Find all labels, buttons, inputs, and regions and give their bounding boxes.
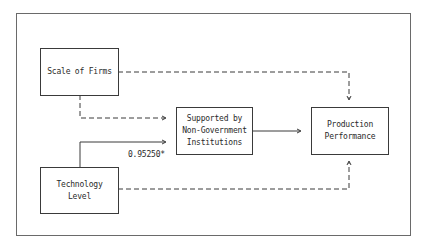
edge-tech-to-production: [118, 162, 349, 189]
edge-scale-to-support: [80, 95, 165, 118]
node-technology-level: Technology Level: [40, 167, 119, 214]
edge-label-coefficient: 0.95250*: [128, 150, 165, 160]
edge-scale-to-production: [118, 72, 349, 99]
node-supported-by-ngo: Supported by Non-Government Institutions: [176, 107, 253, 155]
node-scale-of-firms: Scale of Firms: [40, 48, 119, 96]
node-production-performance: Production Performance: [311, 107, 389, 155]
